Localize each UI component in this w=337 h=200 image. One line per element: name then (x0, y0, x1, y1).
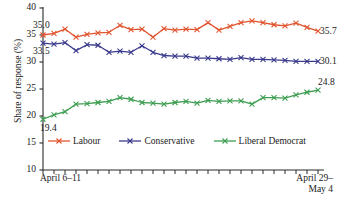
x-axis-label-right: April 29– May 4 (296, 173, 333, 195)
libdem-end-value-label: 24.8 (318, 78, 335, 88)
x-axis-label-right-line1: April 29– (296, 173, 333, 184)
legend-label: Labour (73, 136, 100, 146)
x-axis-label-right-line2: May 4 (296, 184, 333, 195)
chart-legend: LabourConservativeLiberal Democrat (48, 136, 328, 146)
labour-start-value-label: 35.0 (33, 21, 50, 31)
x-axis-label-left: April 6–11 (40, 173, 81, 184)
series-line-1 (43, 43, 318, 62)
series-conservative (41, 40, 321, 64)
legend-item-labour[interactable]: Labour (48, 136, 100, 146)
legend-swatch-icon (119, 136, 141, 146)
conservative-end-value-label: 30.1 (320, 57, 337, 67)
legend-label: Conservative (144, 136, 194, 146)
conservative-start-value-label: 33.5 (33, 47, 50, 57)
series-line-0 (43, 21, 318, 37)
legend-swatch-icon (214, 136, 236, 146)
legend-item-conservative[interactable]: Conservative (119, 136, 194, 146)
legend-item-liberal-democrat[interactable]: Liberal Democrat (214, 136, 306, 146)
libdem-start-value-label: 19.4 (40, 124, 57, 134)
legend-label: Liberal Democrat (239, 136, 306, 146)
series-liberal-democrat (41, 88, 321, 122)
labour-end-value-label: 35.7 (320, 27, 337, 37)
series-line-2 (43, 90, 318, 119)
legend-swatch-icon (48, 136, 70, 146)
series-labour (41, 18, 321, 39)
